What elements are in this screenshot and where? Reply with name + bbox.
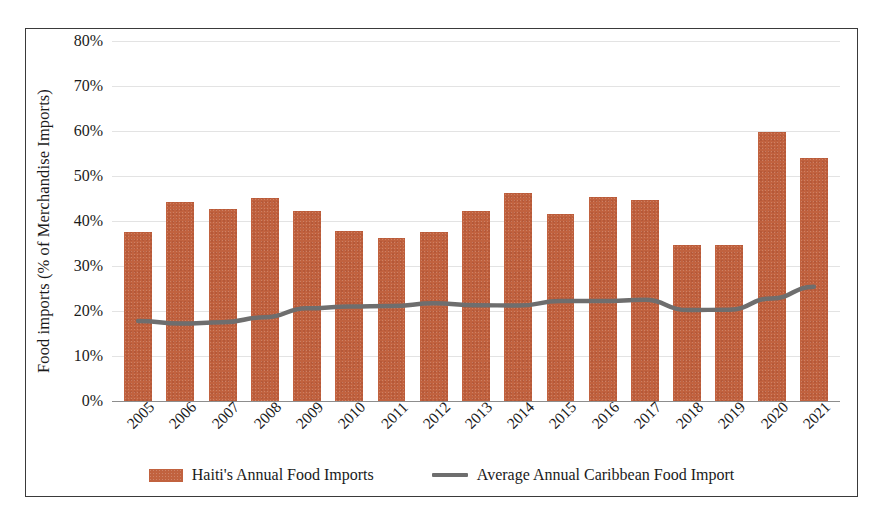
x-axis-tick-label: 2020 — [757, 398, 792, 433]
x-axis-tick-label: 2013 — [461, 398, 496, 433]
bar-slot — [793, 41, 835, 401]
legend-item-caribbean: Average Annual Caribbean Food Import — [432, 466, 734, 484]
bar-slot — [455, 41, 497, 401]
bar-slot — [624, 41, 666, 401]
bar-slot — [413, 41, 455, 401]
legend-label-caribbean: Average Annual Caribbean Food Import — [477, 466, 734, 484]
bar-2013 — [462, 211, 490, 401]
y-axis-tick-label: 40% — [74, 212, 103, 230]
bar-slot — [159, 41, 201, 401]
x-axis-tick-label: 2021 — [799, 398, 834, 433]
bar-2021 — [800, 158, 828, 401]
bar-slot — [539, 41, 581, 401]
bar-slot — [201, 41, 243, 401]
y-axis-tick-label: 50% — [74, 167, 103, 185]
bar-2016 — [589, 197, 617, 401]
legend-item-haiti: Haiti's Annual Food Imports — [149, 466, 374, 484]
y-axis-tick-label: 0% — [82, 392, 103, 410]
y-axis-tick-label: 20% — [74, 302, 103, 320]
bar-slot — [370, 41, 412, 401]
bar-swatch-icon — [149, 469, 183, 482]
bar-slot — [244, 41, 286, 401]
bar-2011 — [378, 238, 406, 401]
y-axis-tick-label: 70% — [74, 77, 103, 95]
x-axis-tick-label: 2014 — [504, 398, 539, 433]
x-axis-tick-label: 2017 — [630, 398, 665, 433]
bar-slot — [328, 41, 370, 401]
legend-label-haiti: Haiti's Annual Food Imports — [192, 466, 374, 484]
bar-slot — [666, 41, 708, 401]
bar-2008 — [251, 198, 279, 401]
y-axis-tick-label: 30% — [74, 257, 103, 275]
bar-2018 — [673, 245, 701, 401]
x-axis-tick-label: 2011 — [377, 398, 411, 432]
plot-area: 0%10%20%30%40%50%60%70%80% — [112, 41, 840, 401]
chart-figure: Food imports (% of Merchandise Imports) … — [25, 28, 858, 497]
x-axis-tick-label: 2010 — [335, 398, 370, 433]
bar-2005 — [124, 232, 152, 401]
bar-2014 — [504, 193, 532, 401]
bar-2009 — [293, 211, 321, 401]
bar-slot — [117, 41, 159, 401]
y-axis-title: Food imports (% of Merchandise Imports) — [34, 51, 60, 411]
bar-2019 — [715, 245, 743, 401]
chart-legend: Haiti's Annual Food Imports Average Annu… — [26, 466, 857, 484]
x-axis-tick-label: 2006 — [166, 398, 201, 433]
bar-2020 — [758, 132, 786, 401]
y-axis-tick-label: 80% — [74, 32, 103, 50]
x-axis-tick-label: 2015 — [546, 398, 581, 433]
x-axis-tick-label: 2016 — [588, 398, 623, 433]
bar-slot — [708, 41, 750, 401]
bar-slot — [286, 41, 328, 401]
y-axis-tick-label: 60% — [74, 122, 103, 140]
y-axis-tick-label: 10% — [74, 347, 103, 365]
x-axis-tick-label: 2019 — [715, 398, 750, 433]
x-axis-tick-label: 2005 — [123, 398, 158, 433]
x-axis-tick-label: 2018 — [672, 398, 707, 433]
bar-2010 — [335, 231, 363, 401]
x-axis-tick-label: 2008 — [250, 398, 285, 433]
bar-2015 — [547, 214, 575, 401]
bar-series — [112, 41, 840, 401]
x-axis-tick-label: 2007 — [208, 398, 243, 433]
line-swatch-icon — [432, 473, 468, 478]
bar-2012 — [420, 232, 448, 401]
bar-2017 — [631, 200, 659, 401]
bar-slot — [751, 41, 793, 401]
x-axis-tick-label: 2012 — [419, 398, 454, 433]
bar-2006 — [166, 202, 194, 401]
bar-slot — [497, 41, 539, 401]
x-axis-tick-label: 2009 — [292, 398, 327, 433]
bar-2007 — [209, 209, 237, 401]
bar-slot — [582, 41, 624, 401]
